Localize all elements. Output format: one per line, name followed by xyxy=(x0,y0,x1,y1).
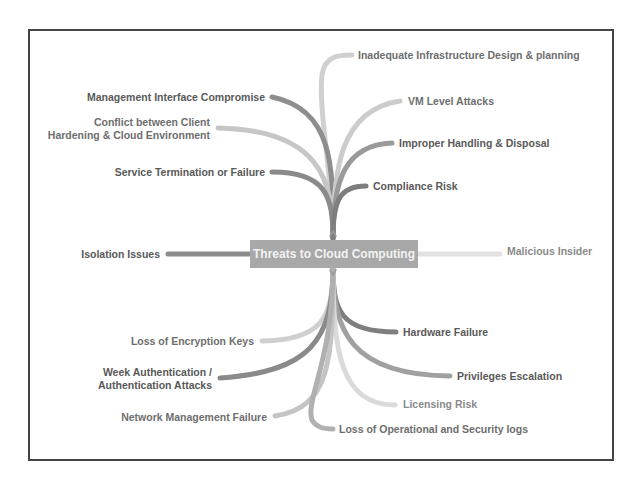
topic-licensing-risk[interactable]: Licensing Risk xyxy=(403,398,477,411)
topic-vm-level-attacks[interactable]: VM Level Attacks xyxy=(408,95,494,108)
topic-inadequate-infrastructure[interactable]: Inadequate Infrastructure Design & plann… xyxy=(358,49,580,62)
topic-hardware-failure[interactable]: Hardware Failure xyxy=(403,326,488,339)
topic-week-authentication[interactable]: Week Authentication / Authentication Att… xyxy=(98,366,212,392)
topic-malicious-insider[interactable]: Malicious Insider xyxy=(507,245,592,258)
topic-week-authentication-line1: Week Authentication / xyxy=(98,366,212,379)
topic-conflict-client-line2: Hardening & Cloud Environment xyxy=(48,129,210,142)
topic-network-management[interactable]: Network Management Failure xyxy=(121,411,267,424)
topic-conflict-client-line1: Conflict between Client xyxy=(48,116,210,129)
topic-loss-operational-logs[interactable]: Loss of Operational and Security logs xyxy=(339,423,528,436)
topic-week-authentication-line2: Authentication Attacks xyxy=(98,379,212,392)
topic-compliance-risk[interactable]: Compliance Risk xyxy=(373,180,458,193)
topic-management-interface[interactable]: Management Interface Compromise xyxy=(87,91,265,104)
topic-loss-encryption-keys[interactable]: Loss of Encryption Keys xyxy=(131,335,254,348)
central-topic[interactable]: Threats to Cloud Computing xyxy=(250,240,418,268)
topic-isolation-issues[interactable]: Isolation Issues xyxy=(81,248,160,261)
topic-service-termination[interactable]: Service Termination or Failure xyxy=(115,166,265,179)
branch-licensing-risk xyxy=(333,268,395,405)
topic-improper-handling[interactable]: Improper Handling & Disposal xyxy=(399,137,550,150)
branch-week-authentication xyxy=(220,268,333,378)
topic-conflict-client[interactable]: Conflict between Client Hardening & Clou… xyxy=(48,116,210,142)
topic-privileges-escalation[interactable]: Privileges Escalation xyxy=(457,370,562,383)
